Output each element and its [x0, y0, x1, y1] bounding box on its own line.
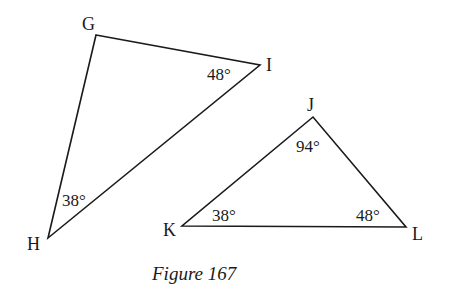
- vertex-label-i: I: [266, 55, 272, 75]
- triangle-diagram: G I H 48° 38° J K L 94° 38° 48° Figure 1…: [0, 0, 450, 296]
- angle-k: 38°: [212, 206, 236, 225]
- vertex-label-j: J: [307, 95, 314, 115]
- vertex-label-g: G: [82, 14, 95, 34]
- vertex-label-l: L: [412, 224, 423, 244]
- angle-i: 48°: [207, 65, 231, 84]
- angle-l: 48°: [356, 206, 380, 225]
- angle-h: 38°: [62, 191, 86, 210]
- vertex-label-h: H: [27, 234, 40, 254]
- figure-167: G I H 48° 38° J K L 94° 38° 48° Figure 1…: [0, 0, 450, 296]
- vertex-label-k: K: [163, 220, 176, 240]
- angle-j: 94°: [296, 137, 320, 156]
- figure-caption: Figure 167: [151, 263, 238, 284]
